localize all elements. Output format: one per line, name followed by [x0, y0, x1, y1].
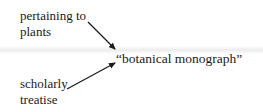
arrow-bottom-icon	[67, 63, 115, 89]
arrows	[0, 0, 263, 112]
arrow-top-icon	[88, 22, 115, 49]
